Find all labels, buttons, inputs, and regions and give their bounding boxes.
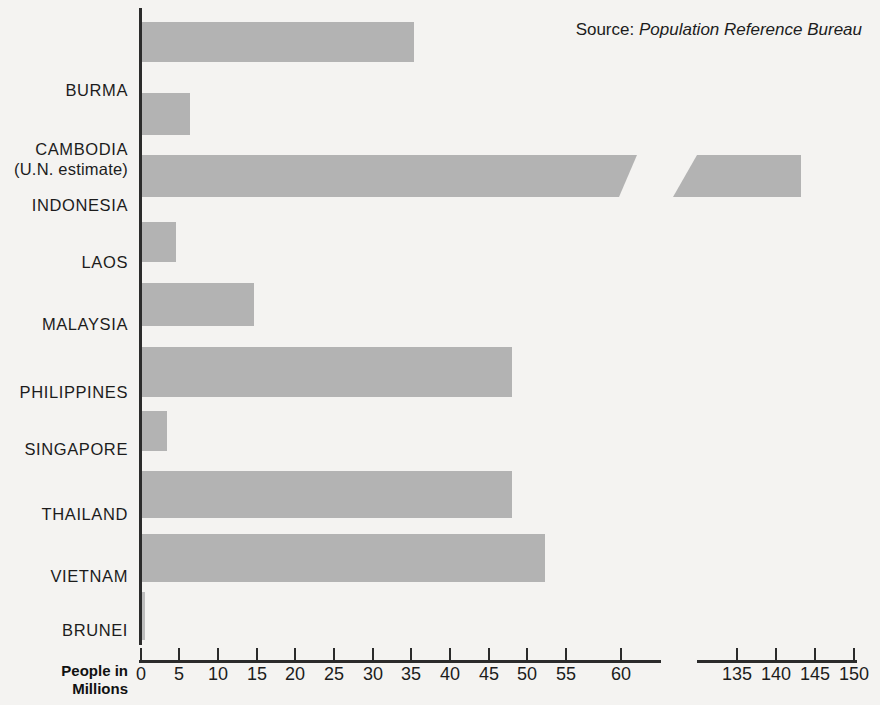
x-tick-55: [565, 648, 567, 661]
bar-vietnam: [142, 534, 545, 582]
category-label-thailand: THAILAND: [0, 504, 128, 524]
x-tick-label-20: 20: [285, 664, 305, 685]
x-tick-label-0: 0: [136, 664, 146, 685]
category-label-text: CAMBODIA: [35, 140, 128, 158]
x-axis-caption-line2: Millions: [0, 680, 128, 698]
x-tick-40: [449, 648, 451, 661]
x-tick-label-145: 145: [800, 664, 830, 685]
x-tick-45: [488, 648, 490, 661]
category-label-text: BRUNEI: [62, 621, 128, 639]
x-tick-30: [372, 648, 374, 661]
x-tick-label-10: 10: [208, 664, 228, 685]
plot-area: BURMACAMBODIA(U.N. estimate)INDONESIALAO…: [0, 0, 880, 648]
x-tick-140: [775, 648, 777, 661]
x-tick-10: [217, 648, 219, 661]
x-axis-caption-line1: People in: [61, 662, 128, 679]
category-label-text: PHILIPPINES: [20, 383, 128, 401]
x-tick-label-40: 40: [440, 664, 460, 685]
x-tick-145: [814, 648, 816, 661]
x-tick-label-50: 50: [517, 664, 537, 685]
category-label-cambodia: CAMBODIA(U.N. estimate): [0, 139, 128, 179]
category-label-text: SINGAPORE: [24, 440, 128, 458]
x-tick-0: [140, 648, 142, 661]
x-tick-label-135: 135: [722, 664, 752, 685]
bar-brunei: [142, 592, 145, 640]
category-label-laos: LAOS: [0, 252, 128, 272]
x-tick-label-60: 60: [611, 664, 631, 685]
x-tick-20: [294, 648, 296, 661]
x-tick-label-140: 140: [761, 664, 791, 685]
x-tick-25: [333, 648, 335, 661]
category-label-burma: BURMA: [0, 80, 128, 100]
x-tick-label-25: 25: [324, 664, 344, 685]
category-label-text: BURMA: [65, 81, 128, 99]
category-label-singapore: SINGAPORE: [0, 439, 128, 459]
x-tick-label-15: 15: [247, 664, 267, 685]
category-label-text: LAOS: [82, 253, 128, 271]
bar-laos: [142, 222, 176, 262]
category-label-brunei: BRUNEI: [0, 620, 128, 640]
bar-singapore: [142, 411, 167, 451]
x-tick-label-45: 45: [479, 664, 499, 685]
x-tick-label-5: 5: [174, 664, 184, 685]
bar-indonesia-segment-right: [673, 155, 801, 197]
x-tick-label-55: 55: [556, 664, 576, 685]
category-label-vietnam: VIETNAM: [0, 566, 128, 586]
bar-thailand: [142, 471, 512, 518]
x-tick-label-30: 30: [363, 664, 383, 685]
x-tick-15: [256, 648, 258, 661]
x-tick-5: [178, 648, 180, 661]
x-tick-label-150: 150: [839, 664, 869, 685]
x-tick-135: [736, 648, 738, 661]
category-label-subtext: (U.N. estimate): [0, 159, 128, 179]
x-axis: People in Millions 051015202530354045505…: [0, 648, 880, 705]
category-label-text: INDONESIA: [32, 196, 128, 214]
category-label-malaysia: MALAYSIA: [0, 314, 128, 334]
bar-malaysia: [142, 283, 254, 326]
x-tick-35: [410, 648, 412, 661]
category-label-philippines: PHILIPPINES: [0, 382, 128, 402]
x-tick-50: [526, 648, 528, 661]
bar-burma: [142, 22, 414, 62]
population-bar-chart: Source: Population Reference Bureau BURM…: [0, 0, 880, 705]
bar-cambodia: [142, 93, 190, 135]
x-tick-60: [620, 648, 622, 661]
bar-philippines: [142, 347, 512, 397]
x-axis-caption: People in Millions: [0, 662, 128, 699]
category-label-text: MALAYSIA: [42, 315, 128, 333]
category-label-indonesia: INDONESIA: [0, 195, 128, 215]
x-tick-label-35: 35: [401, 664, 421, 685]
category-label-text: VIETNAM: [50, 567, 128, 585]
x-axis-rule-right: [697, 660, 857, 663]
category-label-text: THAILAND: [42, 505, 128, 523]
bar-indonesia-segment-left: [142, 155, 637, 197]
x-tick-150: [853, 648, 855, 661]
